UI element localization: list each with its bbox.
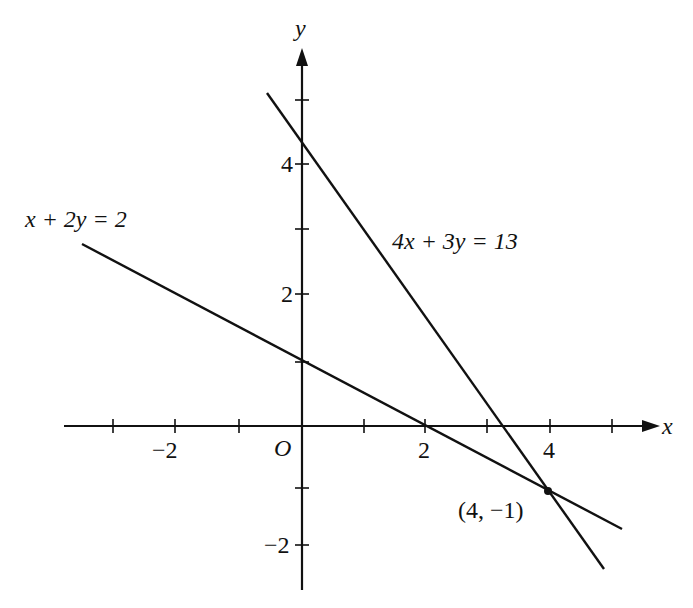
line1-equation-label: x + 2y = 2 [24, 206, 127, 232]
y-axis-arrow-icon [296, 48, 308, 66]
intersection-label: (4, −1) [458, 497, 524, 523]
x-axis-arrow-icon [642, 420, 660, 432]
line2-equation-label: 4x + 3y = 13 [392, 228, 518, 254]
line-4x-plus-3y-eq-13 [267, 93, 604, 569]
intersection-point [544, 487, 552, 495]
y-axis-label: y [293, 15, 306, 41]
y-tick-label-neg2: −2 [264, 532, 290, 558]
y-tick-label-2: 2 [281, 281, 293, 307]
coordinate-plane: y x O −2 2 4 4 2 −2 x + 2y = 2 4x + 3y =… [0, 0, 693, 608]
x-tick-label-4: 4 [543, 437, 555, 463]
x-tick-label-2: 2 [418, 437, 430, 463]
x-tick-label-neg2: −2 [152, 437, 178, 463]
origin-label: O [274, 435, 291, 461]
y-tick-label-4: 4 [281, 151, 293, 177]
x-axis-label: x [661, 413, 673, 439]
line-x-plus-2y-eq-2 [82, 244, 622, 529]
